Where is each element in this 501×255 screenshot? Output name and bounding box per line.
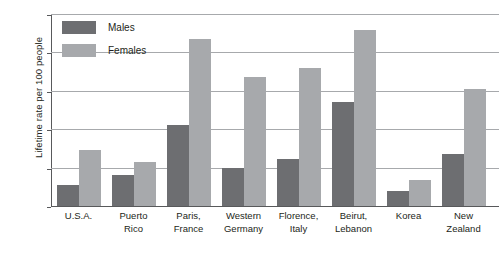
bar-males <box>442 154 464 206</box>
legend-swatch <box>62 44 96 57</box>
y-tick-mark <box>47 92 51 93</box>
x-axis-label-line1: Paris, <box>176 210 200 221</box>
bar-group <box>277 14 321 206</box>
bar-males <box>332 102 354 206</box>
bar-females <box>79 150 101 206</box>
y-axis-title: Lifetime rate per 100 people <box>33 0 44 198</box>
bar-females <box>134 162 156 206</box>
bar-females <box>409 180 431 206</box>
x-axis-label-line2: Zealand <box>427 223 501 236</box>
legend-item-females: Females <box>62 42 192 59</box>
x-axis-label-line2: Lebanon <box>317 223 391 236</box>
legend-label: Males <box>108 22 135 33</box>
bar-group <box>222 14 266 206</box>
plot-frame-left <box>51 14 52 207</box>
y-tick-mark <box>47 53 51 54</box>
legend-label: Females <box>108 45 146 56</box>
x-axis-label-line1: Korea <box>396 210 421 221</box>
x-axis-labels: U.S.A.PuertoRicoParis,FranceWesternGerma… <box>51 210 491 252</box>
bar-group <box>387 14 431 206</box>
x-axis-label-line1: U.S.A. <box>65 210 92 221</box>
bar-males <box>57 185 79 207</box>
bar-females <box>354 30 376 206</box>
bar-males <box>387 191 409 206</box>
bar-males <box>112 175 134 206</box>
bar-females <box>464 89 486 206</box>
legend: MalesFemales <box>62 19 192 65</box>
bar-males <box>277 159 299 206</box>
y-tick-mark <box>47 169 51 170</box>
y-tick-mark <box>47 207 51 208</box>
y-tick-mark <box>47 130 51 131</box>
x-axis-label-line1: Puerto <box>120 210 148 221</box>
bar-females <box>299 68 321 206</box>
x-axis-label-line1: Beirut, <box>340 210 367 221</box>
x-axis-label: NewZealand <box>427 210 501 235</box>
x-axis-label-line1: Florence, <box>279 210 319 221</box>
bar-males <box>222 168 244 206</box>
legend-swatch <box>62 21 96 34</box>
x-axis-line <box>51 206 499 207</box>
legend-item-males: Males <box>62 19 192 36</box>
bar-chart: Lifetime rate per 100 people 0510152025 … <box>0 0 501 255</box>
bar-group <box>442 14 486 206</box>
y-tick-mark <box>47 15 51 16</box>
x-axis-label-line1: Western <box>226 210 261 221</box>
x-axis-label-line1: New <box>454 210 473 221</box>
bar-females <box>244 77 266 206</box>
bar-males <box>167 125 189 206</box>
bar-group <box>332 14 376 206</box>
